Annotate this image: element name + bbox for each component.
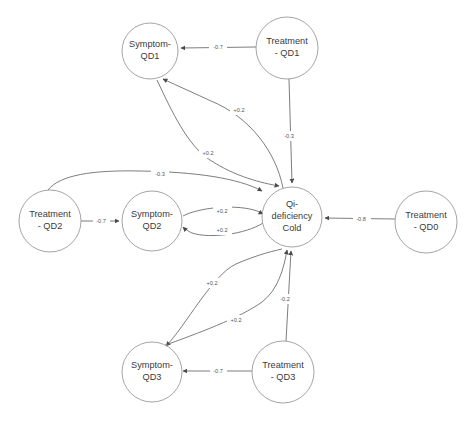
edge-weight-label: -0.3 bbox=[155, 171, 165, 177]
edge-symptom-qd2-to-qi-deficiency-cold[interactable]: +0.2 bbox=[183, 206, 263, 216]
node-label-line-1: Symptom- bbox=[129, 39, 171, 49]
edge-weight-label: -0.7 bbox=[96, 218, 106, 224]
edge-treatment-qd3-to-symptom-qd3[interactable]: -0.7 bbox=[183, 366, 252, 376]
node-treatment-qd2[interactable]: Treatment - QD2 bbox=[19, 190, 81, 252]
edge-line bbox=[163, 250, 287, 346]
edge-line bbox=[163, 79, 283, 188]
node-label-line-2: - QD1 bbox=[275, 48, 300, 58]
causal-graph-canvas: -0.7 -0.3 +0.2 +0.2 bbox=[0, 0, 472, 423]
edge-weight-label: -0.8 bbox=[356, 216, 366, 222]
node-label-line-2: deficiency bbox=[272, 211, 313, 221]
node-label-line-1: Treatment bbox=[29, 209, 71, 219]
node-label-line-1: Symptom- bbox=[131, 209, 173, 219]
edge-treatment-qd1-to-symptom-qd1[interactable]: -0.7 bbox=[181, 42, 256, 52]
edge-qi-deficiency-cold-to-symptom-qd2[interactable]: +0.2 bbox=[183, 223, 263, 236]
edge-weight-label: -0.7 bbox=[213, 368, 223, 374]
node-label-line-1: Treatment bbox=[266, 36, 308, 46]
edge-line bbox=[166, 249, 282, 346]
node-qi-deficiency-cold[interactable]: Qi- deficiency Cold bbox=[262, 187, 322, 247]
node-symptom-qd2[interactable]: Symptom- QD2 bbox=[122, 191, 182, 251]
edge-weight-label: +0.2 bbox=[206, 280, 217, 286]
node-treatment-qd1[interactable]: Treatment - QD1 bbox=[256, 17, 318, 79]
node-symptom-qd1[interactable]: Symptom- QD1 bbox=[122, 23, 178, 79]
node-label-line-2: - QD3 bbox=[271, 372, 296, 382]
edge-weight-label: +0.2 bbox=[216, 208, 227, 214]
edge-weight-label: +0.2 bbox=[202, 150, 213, 156]
node-label-line-1: Treatment bbox=[262, 360, 304, 370]
edge-weight-label: +0.2 bbox=[216, 227, 227, 233]
node-label-line-2: QD3 bbox=[143, 372, 162, 382]
edge-weight-label: -0.7 bbox=[213, 44, 223, 50]
edge-treatment-qd1-to-qi-deficiency-cold[interactable]: -0.3 bbox=[281, 79, 298, 183]
edge-qi-deficiency-cold-to-symptom-qd1[interactable]: +0.2 bbox=[163, 79, 283, 188]
node-treatment-qd3[interactable]: Treatment - QD3 bbox=[252, 341, 314, 403]
node-label-line-2: - QD0 bbox=[414, 222, 439, 232]
node-label-line-2: QD2 bbox=[143, 221, 162, 231]
edge-qi-deficiency-cold-to-symptom-qd3[interactable]: +0.2 bbox=[166, 249, 282, 346]
node-label-line-1: Qi- bbox=[286, 199, 298, 209]
causal-graph-svg: -0.7 -0.3 +0.2 +0.2 bbox=[0, 0, 472, 423]
node-symptom-qd3[interactable]: Symptom- QD3 bbox=[122, 342, 182, 402]
edge-weight-label: -0.3 bbox=[284, 133, 294, 139]
node-label-line-1: Symptom- bbox=[131, 360, 173, 370]
edge-treatment-qd0-to-qi-deficiency-cold[interactable]: -0.8 bbox=[325, 214, 395, 224]
node-label-line-1: Treatment bbox=[405, 210, 447, 220]
edge-treatment-qd2-to-symptom-qd2[interactable]: -0.7 bbox=[81, 216, 119, 226]
edges-layer: -0.7 -0.3 +0.2 +0.2 bbox=[48, 42, 395, 376]
edge-treatment-qd2-to-qi-deficiency-cold[interactable]: -0.3 bbox=[48, 169, 262, 191]
edge-treatment-qd3-to-qi-deficiency-cold[interactable]: -0.2 bbox=[277, 251, 294, 341]
edge-symptom-qd3-to-qi-deficiency-cold[interactable]: +0.2 bbox=[163, 250, 287, 346]
edge-weight-label: +0.2 bbox=[233, 107, 244, 113]
nodes-layer: Symptom- QD1 Treatment - QD1 Treatment -… bbox=[19, 17, 457, 403]
node-label-line-3: Cold bbox=[283, 223, 302, 233]
edge-weight-label: +0.2 bbox=[230, 317, 241, 323]
edge-symptom-qd1-to-qi-deficiency-cold[interactable]: +0.2 bbox=[157, 80, 279, 186]
node-treatment-qd0[interactable]: Treatment - QD0 bbox=[395, 191, 457, 253]
edge-line bbox=[157, 80, 279, 186]
node-label-line-2: QD1 bbox=[141, 51, 160, 61]
node-label-line-2: - QD2 bbox=[38, 221, 63, 231]
edge-weight-label: -0.2 bbox=[280, 296, 290, 302]
